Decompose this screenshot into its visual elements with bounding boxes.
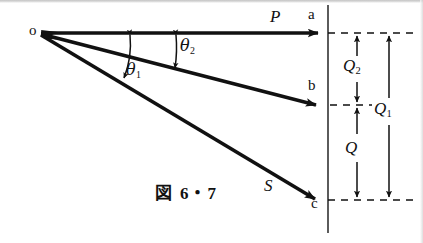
q1-subscript: 1	[387, 108, 392, 119]
caption-kanji: 図	[155, 183, 173, 203]
q2-subscript: 2	[356, 65, 361, 76]
label-vector-s: S	[264, 177, 273, 194]
figure-caption: 図 6・7	[155, 185, 217, 202]
label-dimension-q: Q	[345, 139, 357, 156]
label-vector-p: P	[270, 8, 280, 25]
q2-glyph: Q	[343, 56, 355, 75]
label-angle-theta2: θ2	[180, 38, 195, 54]
label-dimension-q2: Q2	[343, 57, 361, 74]
vector-diagram	[0, 0, 423, 243]
label-origin: o	[29, 23, 37, 38]
theta1-glyph: θ	[126, 60, 136, 79]
caption-number: 6・7	[180, 184, 217, 203]
theta2-glyph: θ	[180, 36, 190, 55]
vector-s	[41, 35, 315, 199]
label-angle-theta1: θ1	[126, 62, 141, 78]
angle-arc-theta2	[175, 35, 177, 68]
label-point-a: a	[308, 7, 315, 22]
theta1-subscript: 1	[136, 69, 141, 80]
q1-glyph: Q	[374, 99, 386, 118]
figure-canvas: o P S a b c θ1 θ2 Q2 Q Q1 図 6・7	[0, 0, 423, 243]
label-dimension-q1: Q1	[374, 100, 392, 117]
label-point-c: c	[311, 196, 318, 211]
label-point-b: b	[308, 78, 316, 93]
vector-ob	[41, 34, 316, 105]
theta2-subscript: 2	[190, 45, 195, 56]
